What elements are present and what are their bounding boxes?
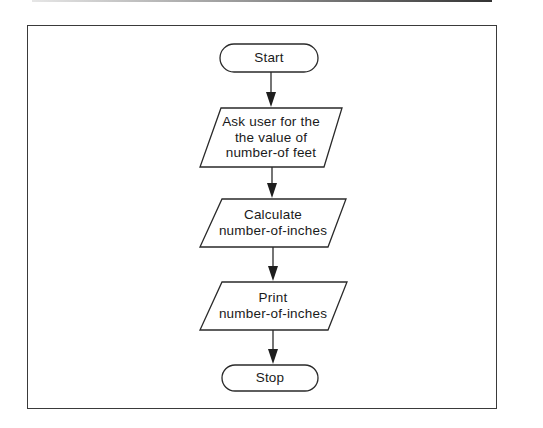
input-label: Ask user for the the value of number-of … <box>206 114 336 161</box>
calc-text-line-1: Calculate <box>206 207 340 223</box>
print-text-line-2: number-of-inches <box>206 306 340 322</box>
arrowhead-icon <box>268 266 278 281</box>
print-label: Print number-of-inches <box>206 290 340 321</box>
stop-label: Stop <box>222 370 318 386</box>
start-label: Start <box>220 50 318 66</box>
input-text-line-1: Ask user for the <box>206 114 336 130</box>
calc-text-line-2: number-of-inches <box>206 223 340 239</box>
arrowhead-icon <box>267 183 277 198</box>
input-text-line-2: the value of <box>206 130 336 146</box>
print-text-line-1: Print <box>206 290 340 306</box>
arrowhead-icon <box>266 92 276 107</box>
arrowhead-icon <box>268 349 278 364</box>
stop-text: Stop <box>256 370 285 385</box>
calc-label: Calculate number-of-inches <box>206 207 340 238</box>
start-text: Start <box>254 50 284 65</box>
input-text-line-3: number-of feet <box>206 145 336 161</box>
